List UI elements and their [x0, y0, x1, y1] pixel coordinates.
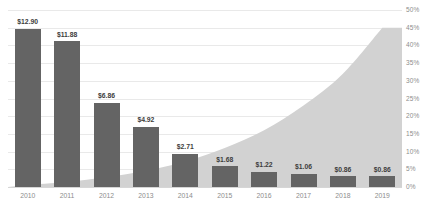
right-axis-tick: 40% [406, 42, 419, 49]
bar-value-label: $11.88 [57, 32, 77, 39]
bar-value-label: $2.71 [177, 144, 194, 151]
bar-value-label: $12.90 [17, 19, 38, 26]
x-axis-tick: 2011 [60, 193, 75, 200]
x-axis-tick: 2017 [296, 193, 311, 200]
right-axis-tick: 45% [406, 24, 419, 31]
bar-group: $2.71 [172, 10, 198, 187]
right-axis-tick: 25% [406, 95, 419, 102]
bar-series: $12.90$11.88$6.86$4.92$2.71$1.68$1.22$1.… [8, 10, 402, 187]
bar-value-label: $1.06 [295, 164, 312, 171]
bar-group: $0.86 [369, 10, 395, 187]
right-axis-tick: 20% [406, 113, 419, 120]
axis-baseline [8, 187, 402, 188]
bar-group: $1.22 [251, 10, 277, 187]
right-axis-tick: 35% [406, 60, 419, 67]
bar-group: $11.88 [54, 10, 80, 187]
bar[interactable] [133, 127, 159, 187]
bar-value-label: $1.68 [216, 157, 233, 164]
x-axis-tick: 2010 [20, 193, 35, 200]
bar[interactable] [330, 176, 356, 187]
chart-container: $12.90$11.88$6.86$4.92$2.71$1.68$1.22$1.… [0, 0, 438, 219]
x-axis-tick: 2013 [138, 193, 153, 200]
bar[interactable] [291, 174, 317, 187]
right-axis-tick: 15% [406, 131, 419, 138]
right-axis-tick: 10% [406, 148, 419, 155]
x-axis-tick: 2018 [335, 193, 350, 200]
x-axis: 2010201120122013201420152016201720182019 [8, 193, 402, 209]
right-axis-tick: 30% [406, 78, 419, 85]
bar-value-label: $4.92 [137, 117, 154, 124]
bar[interactable] [369, 176, 395, 187]
bar[interactable] [94, 103, 120, 187]
bar-value-label: $1.22 [256, 162, 273, 169]
x-axis-tick: 2014 [178, 193, 193, 200]
bar-value-label: $0.86 [334, 167, 351, 174]
bar[interactable] [212, 166, 238, 187]
right-axis-tick: 5% [406, 166, 416, 173]
right-axis-tick: 50% [406, 7, 419, 14]
bar[interactable] [15, 29, 41, 187]
bar[interactable] [54, 41, 80, 187]
x-axis-tick: 2019 [375, 193, 390, 200]
bar-value-label: $0.86 [374, 167, 391, 174]
x-axis-tick: 2015 [217, 193, 232, 200]
bar-value-label: $6.86 [98, 93, 115, 100]
bar[interactable] [172, 154, 198, 187]
right-axis-tick: 0% [406, 184, 416, 191]
bar-group: $4.92 [133, 10, 159, 187]
x-axis-tick: 2012 [99, 193, 114, 200]
bar-group: $6.86 [94, 10, 120, 187]
bar-group: $1.68 [212, 10, 238, 187]
plot-area: $12.90$11.88$6.86$4.92$2.71$1.68$1.22$1.… [8, 10, 402, 187]
x-axis-tick: 2016 [257, 193, 272, 200]
bar-group: $0.86 [330, 10, 356, 187]
bar-group: $1.06 [291, 10, 317, 187]
bar-group: $12.90 [15, 10, 41, 187]
bar[interactable] [251, 172, 277, 187]
